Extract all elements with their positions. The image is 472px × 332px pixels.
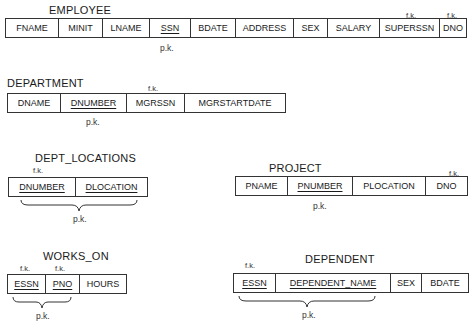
department-attr-dnumber: DNUMBER — [71, 98, 117, 108]
department-attr-mgrssn: MGRSSN — [126, 94, 184, 112]
dependent-title: DEPENDENT — [305, 253, 375, 265]
dept-locations-pk-label: p.k. — [73, 214, 87, 224]
project-table: PNAME PNUMBER PLOCATION DNO — [235, 176, 468, 196]
works-on-attr-essn: ESSN — [14, 279, 39, 289]
dependent-essn-fk-label: f.k. — [245, 261, 255, 270]
dept-locations-fk-label: f.k. — [33, 166, 43, 175]
dependent-attr-essn: ESSN — [242, 278, 267, 288]
works-on-table: ESSN PNO HOURS — [7, 274, 127, 294]
employee-attr-lname: LNAME — [102, 19, 149, 37]
works-on-attr-hours: HOURS — [79, 275, 126, 293]
employee-table: FNAME MINIT LNAME SSN BDATE ADDRESS SEX … — [5, 18, 467, 38]
project-attr-pnumber: PNUMBER — [297, 181, 342, 191]
employee-attr-dno: DNO — [439, 19, 466, 37]
works-on-pk-brace — [12, 296, 72, 310]
dependent-attr-bdate: BDATE — [421, 274, 468, 292]
dept-locations-pk-brace — [20, 199, 138, 213]
employee-attr-fname: FNAME — [6, 19, 58, 37]
project-title: PROJECT — [269, 162, 322, 174]
department-attr-dname: DNAME — [8, 94, 60, 112]
employee-attr-bdate: BDATE — [190, 19, 235, 37]
department-table: DNAME DNUMBER MGRSSN MGRSTARTDATE — [7, 93, 286, 113]
works-on-pk-label: p.k. — [36, 311, 50, 321]
project-attr-pname: PNAME — [236, 177, 287, 195]
dependent-pk-label: p.k. — [302, 310, 316, 320]
employee-attr-salary: SALARY — [327, 19, 379, 37]
dependent-attr-sex: SEX — [390, 274, 421, 292]
employee-pk-label: p.k. — [160, 43, 174, 53]
employee-attr-minit: MINIT — [58, 19, 102, 37]
dept-locations-table: DNUMBER DLOCATION — [8, 177, 148, 197]
works-on-title: WORKS_ON — [43, 250, 109, 262]
department-title: DEPARTMENT — [7, 77, 84, 89]
employee-attr-ssn: SSN — [161, 23, 180, 33]
dept-locations-attr-dnumber: DNUMBER — [19, 182, 65, 192]
mgrssn-fk-label: f.k. — [148, 84, 158, 93]
department-attr-mgrstartdate: MGRSTARTDATE — [184, 94, 285, 112]
department-pk-label: p.k. — [86, 117, 100, 127]
employee-attr-superssn: SUPERSSN — [379, 19, 439, 37]
dept-locations-attr-dlocation: DLOCATION — [86, 182, 138, 192]
dependent-pk-brace — [238, 295, 376, 309]
pno-fk-label: f.k. — [55, 264, 65, 273]
dependent-attr-dependent-name: DEPENDENT_NAME — [290, 278, 377, 288]
project-pk-label: p.k. — [313, 201, 327, 211]
employee-attr-address: ADDRESS — [235, 19, 293, 37]
project-attr-dno: DNO — [425, 177, 467, 195]
employee-title: EMPLOYEE — [49, 4, 111, 16]
dept-locations-title: DEPT_LOCATIONS — [35, 152, 136, 164]
essn-fk-label: f.k. — [20, 264, 30, 273]
project-attr-plocation: PLOCATION — [352, 177, 425, 195]
dependent-table: ESSN DEPENDENT_NAME SEX BDATE — [233, 273, 469, 293]
employee-attr-sex: SEX — [293, 19, 327, 37]
works-on-attr-pno: PNO — [53, 279, 73, 289]
